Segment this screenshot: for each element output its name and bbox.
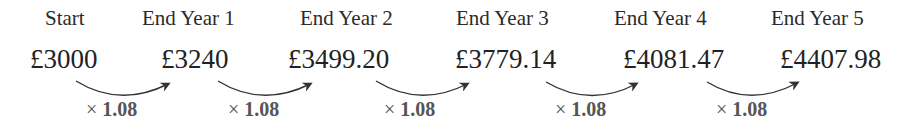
arrow-icon [376,81,467,95]
multiplier-label-1: × 1.08 [86,98,137,121]
arrow-icon [707,82,797,95]
multiplier-label-4: × 1.08 [555,98,606,121]
multiplier-label-2: × 1.08 [228,98,279,121]
arrow-icon [218,81,310,95]
multiplier-label-3: × 1.08 [384,98,435,121]
multiplier-label-5: × 1.08 [716,98,767,121]
arrow-icon [546,82,636,96]
arrow-icon [76,81,168,95]
